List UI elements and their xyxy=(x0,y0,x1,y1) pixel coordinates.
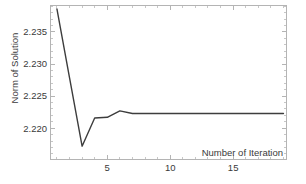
y-tick-label: 2.220 xyxy=(23,123,47,134)
x-tick-label: 10 xyxy=(165,162,176,173)
chart-canvas: 510152.2352.2302.2252.220 Number of Iter… xyxy=(0,0,306,184)
y-tick-label: 2.230 xyxy=(23,58,47,69)
plot-frame xyxy=(50,5,286,159)
axis-ticks xyxy=(50,5,286,159)
series-line xyxy=(57,9,284,146)
x-tick-label: 15 xyxy=(228,162,239,173)
y-tick-label: 2.235 xyxy=(23,26,47,37)
y-tick-label: 2.225 xyxy=(23,90,47,101)
x-tick-label: 5 xyxy=(105,162,110,173)
y-axis-label: Norm of Solution xyxy=(9,33,20,104)
line-chart: 510152.2352.2302.2252.220 Number of Iter… xyxy=(0,0,306,184)
x-axis-label: Number of Iteration xyxy=(202,147,283,158)
